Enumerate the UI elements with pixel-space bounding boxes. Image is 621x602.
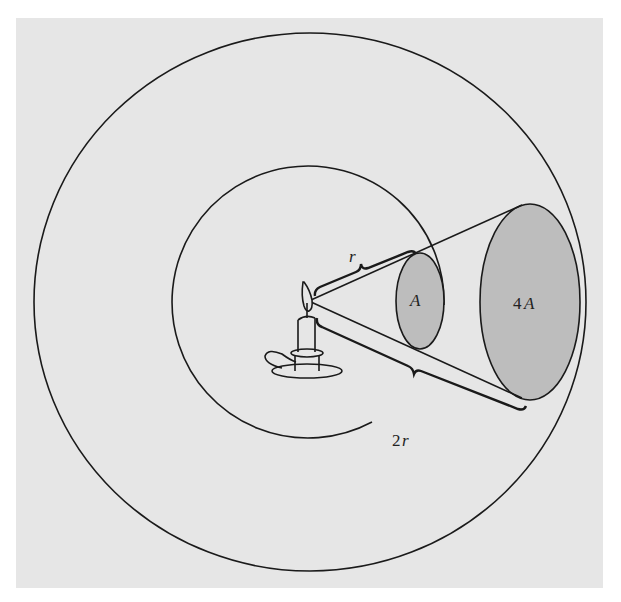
area-a-label: A: [409, 291, 421, 310]
inverse-square-diagram: r 2 r A 4 A: [0, 0, 621, 602]
area-4a-label-num: 4: [513, 294, 522, 313]
r-label: r: [349, 247, 356, 266]
2r-label-var: r: [402, 431, 409, 450]
2r-label-num: 2: [392, 431, 401, 450]
area-4a-label-var: A: [523, 294, 535, 313]
